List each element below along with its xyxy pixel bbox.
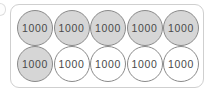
counter-row-1: 1000 1000 1000 1000 1000 [17,10,199,46]
counter-label: 1000 [168,23,194,34]
counter-r2c4[interactable]: 1000 [127,46,163,82]
cropped-edge-artifact [0,3,6,16]
counter-label: 1000 [132,23,158,34]
counter-label: 1000 [95,59,121,70]
counter-r2c5[interactable]: 1000 [163,46,199,82]
counter-r2c3[interactable]: 1000 [90,46,126,82]
counter-label: 1000 [95,23,121,34]
counter-r1c4[interactable]: 1000 [127,10,163,46]
counter-r2c1[interactable]: 1000 [17,46,53,82]
counter-label: 1000 [59,23,85,34]
counter-row-2: 1000 1000 1000 1000 1000 [17,46,199,82]
counter-label: 1000 [168,59,194,70]
counter-grid: 1000 1000 1000 1000 1000 1000 [17,10,199,82]
counter-r1c2[interactable]: 1000 [54,10,90,46]
counter-label: 1000 [59,59,85,70]
counter-r2c2[interactable]: 1000 [54,46,90,82]
counter-r1c5[interactable]: 1000 [163,10,199,46]
counter-r1c1[interactable]: 1000 [17,10,53,46]
counter-r1c3[interactable]: 1000 [90,10,126,46]
counter-label: 1000 [132,59,158,70]
canvas: 1000 1000 1000 1000 1000 1000 [0,0,212,93]
counter-label: 1000 [22,23,48,34]
place-value-counter-panel: 1000 1000 1000 1000 1000 1000 [10,4,204,88]
counter-label: 1000 [22,59,48,70]
